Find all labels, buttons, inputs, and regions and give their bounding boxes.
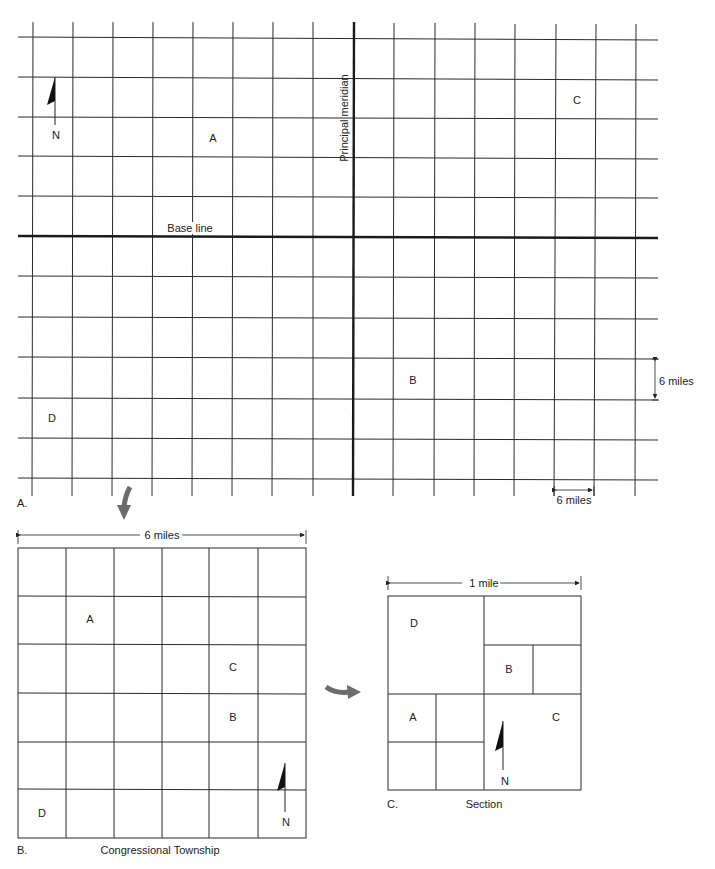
township-region-a: A (86, 613, 93, 625)
scale-label-horizontal: 6 miles (557, 494, 592, 506)
panel-a-caption: A. (17, 497, 27, 509)
land-survey-diagram (0, 0, 715, 869)
curved-arrow-right-icon (326, 685, 361, 699)
section-region-a: A (409, 711, 416, 723)
scale-bar-vertical (652, 359, 659, 400)
principal-meridian-label: Principal meridian (338, 74, 350, 161)
base-line (18, 236, 658, 238)
north-label: N (282, 816, 290, 828)
region-label-b: B (409, 374, 416, 386)
north-label: N (501, 775, 509, 787)
region-label-c: C (573, 94, 581, 106)
north-arrow-icon (495, 721, 503, 770)
township-scale-label: 6 miles (145, 529, 180, 541)
curved-arrow-down-icon (117, 487, 131, 520)
section-title: Section (466, 798, 503, 810)
panel-b-township-grid (18, 548, 306, 838)
principal-meridian (353, 22, 354, 496)
township-region-b: B (229, 711, 236, 723)
township-title: Congressional Township (100, 844, 219, 856)
township-region-c: C (229, 661, 237, 673)
panel-c-caption: C. (387, 798, 398, 810)
north-label: N (52, 129, 60, 141)
section-region-c: C (552, 711, 560, 723)
panel-b-caption: B. (17, 844, 27, 856)
township-region-d: D (38, 807, 46, 819)
section-region-d: D (410, 617, 418, 629)
section-scale-label: 1 mile (469, 577, 498, 589)
base-line-label: Base line (166, 222, 213, 234)
section-region-b: B (505, 663, 512, 675)
region-label-a: A (209, 132, 216, 144)
north-arrow-icon (47, 77, 55, 125)
north-arrow-icon (277, 763, 285, 812)
region-label-d: D (48, 412, 56, 424)
scale-label-vertical: 6 miles (659, 375, 694, 387)
